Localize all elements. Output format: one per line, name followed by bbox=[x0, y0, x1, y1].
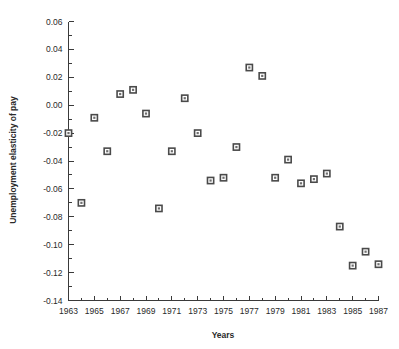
data-point-center bbox=[313, 178, 315, 180]
x-tick-label: 1985 bbox=[343, 306, 362, 316]
y-tick-label: -0.02 bbox=[43, 128, 63, 138]
x-axis-ticks bbox=[69, 296, 379, 301]
data-point-center bbox=[119, 93, 121, 95]
data-point-center bbox=[274, 177, 276, 179]
x-tick-label: 1979 bbox=[266, 306, 285, 316]
x-axis-tick-labels: 1963196519671969197119731975197719791981… bbox=[59, 306, 388, 316]
data-point-center bbox=[300, 182, 302, 184]
data-point-center bbox=[222, 177, 224, 179]
plot-canvas: 0.060.040.020.00-0.02-0.04-0.06-0.08-0.1… bbox=[0, 0, 399, 349]
y-tick-label: -0.10 bbox=[43, 240, 63, 250]
data-point-center bbox=[171, 150, 173, 152]
x-tick-label: 1965 bbox=[85, 306, 104, 316]
data-point-center bbox=[248, 66, 250, 68]
data-point-center bbox=[364, 251, 366, 253]
x-tick-label: 1975 bbox=[214, 306, 233, 316]
y-axis-tick-labels: 0.060.040.020.00-0.02-0.04-0.06-0.08-0.1… bbox=[43, 17, 63, 306]
y-tick-label: -0.08 bbox=[43, 212, 63, 222]
x-tick-label: 1983 bbox=[317, 306, 336, 316]
x-tick-label: 1977 bbox=[240, 306, 259, 316]
x-tick-label: 1981 bbox=[292, 306, 311, 316]
y-tick-label: -0.06 bbox=[43, 184, 63, 194]
y-tick-label: 0.02 bbox=[46, 72, 63, 82]
data-point-center bbox=[106, 150, 108, 152]
data-point-center bbox=[132, 89, 134, 91]
data-point-center bbox=[209, 179, 211, 181]
scatter-chart-figure: 0.060.040.020.00-0.02-0.04-0.06-0.08-0.1… bbox=[0, 0, 399, 349]
data-point-center bbox=[339, 225, 341, 227]
x-tick-label: 1967 bbox=[111, 306, 130, 316]
data-point-center bbox=[145, 112, 147, 114]
data-point-center bbox=[287, 159, 289, 161]
data-point-center bbox=[184, 97, 186, 99]
data-point-center bbox=[197, 132, 199, 134]
x-tick-label: 1987 bbox=[369, 306, 388, 316]
data-point-center bbox=[326, 172, 328, 174]
y-axis-title: Unemployment elasticity of pay bbox=[8, 96, 18, 224]
y-axis-ticks bbox=[69, 22, 74, 301]
data-point-center bbox=[80, 202, 82, 204]
data-point-center bbox=[158, 207, 160, 209]
x-axis-title: Years bbox=[212, 330, 235, 340]
y-tick-label: 0.00 bbox=[46, 100, 63, 110]
data-point-center bbox=[377, 263, 379, 265]
x-tick-label: 1973 bbox=[188, 306, 207, 316]
y-tick-label: -0.14 bbox=[43, 296, 63, 306]
y-tick-label: 0.04 bbox=[46, 44, 63, 54]
data-point-center bbox=[352, 265, 354, 267]
y-tick-label: -0.12 bbox=[43, 268, 63, 278]
data-point-center bbox=[93, 117, 95, 119]
data-point-markers bbox=[65, 64, 381, 268]
x-tick-label: 1969 bbox=[137, 306, 156, 316]
y-tick-label: -0.04 bbox=[43, 156, 63, 166]
x-tick-label: 1971 bbox=[162, 306, 181, 316]
y-tick-label: 0.06 bbox=[46, 17, 63, 27]
x-tick-label: 1963 bbox=[59, 306, 78, 316]
data-point-center bbox=[67, 132, 69, 134]
data-point-center bbox=[235, 146, 237, 148]
data-point-center bbox=[261, 75, 263, 77]
